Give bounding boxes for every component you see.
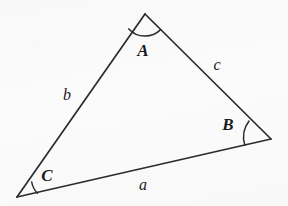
side-label-c: c — [213, 57, 220, 73]
side-line-b — [17, 14, 145, 197]
side-label-a: a — [139, 177, 147, 193]
angle-arc-c — [32, 182, 38, 193]
vertex-label-c: C — [41, 167, 52, 184]
vertex-label-b: B — [222, 116, 233, 133]
vertex-label-a: A — [137, 42, 148, 59]
side-line-c — [145, 14, 271, 139]
angle-arc-b — [244, 121, 249, 145]
figure-canvas: A B C a b c — [0, 0, 288, 206]
side-label-b: b — [63, 87, 71, 103]
